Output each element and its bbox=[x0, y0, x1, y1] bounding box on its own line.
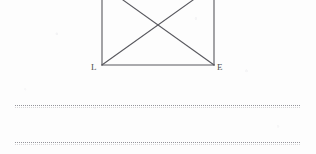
ruled-lines-group bbox=[0, 96, 316, 154]
diagonal-top-right-to-bottom-left bbox=[102, 0, 214, 65]
ruled-line-1-shadow bbox=[15, 107, 300, 108]
ruled-line-2-shadow bbox=[15, 144, 300, 145]
bottom-left-vertex-label: L bbox=[91, 63, 97, 72]
diagonal-top-left-to-bottom-right bbox=[102, 0, 214, 65]
rectangle-with-diagonals-svg bbox=[0, 0, 316, 96]
ruled-line-1 bbox=[15, 105, 300, 106]
bottom-right-vertex-label: E bbox=[217, 63, 223, 72]
geometry-figure: L E bbox=[0, 0, 316, 96]
ruled-line-2 bbox=[15, 142, 300, 143]
scanned-page: L E bbox=[0, 0, 316, 154]
